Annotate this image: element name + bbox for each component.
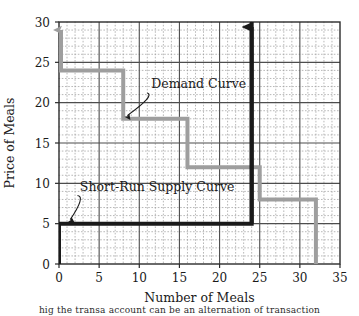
- y-tick-label: 15: [35, 137, 50, 151]
- x-axis-title: Number of Meals: [144, 290, 254, 305]
- demand-annotation-label: Demand Curve: [151, 76, 246, 91]
- y-tick-label: 10: [35, 177, 50, 191]
- x-tick-label: 30: [292, 271, 307, 285]
- figure-container: 05101520253035 051015202530 Number of Me…: [0, 0, 359, 316]
- supply-demand-chart: 05101520253035 051015202530 Number of Me…: [0, 0, 359, 316]
- figure-caption: hig the transa account can be an alterna…: [0, 305, 359, 315]
- y-tick-label: 5: [42, 217, 50, 231]
- y-tick-label: 30: [35, 16, 50, 30]
- y-tick-label: 0: [42, 258, 50, 272]
- x-tick-label: 15: [172, 271, 187, 285]
- y-tick-label: 20: [35, 96, 50, 110]
- x-tick-label: 0: [55, 271, 63, 285]
- y-axis-tick-labels: 051015202530: [35, 16, 50, 272]
- supply-annotation-label: Short-Run Supply Curve: [80, 179, 235, 194]
- y-axis-title: Price of Meals: [2, 98, 17, 189]
- x-axis-tick-labels: 05101520253035: [55, 271, 347, 285]
- y-tick-label: 25: [35, 56, 50, 70]
- x-tick-label: 25: [252, 271, 267, 285]
- x-tick-label: 20: [212, 271, 227, 285]
- x-tick-label: 35: [332, 271, 347, 285]
- x-tick-label: 5: [95, 271, 103, 285]
- x-tick-label: 10: [132, 271, 147, 285]
